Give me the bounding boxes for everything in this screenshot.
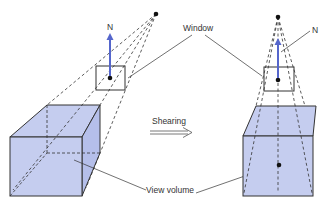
left-view-volume	[10, 105, 100, 196]
left-normal-label: N	[107, 22, 113, 32]
right-normal-leader	[281, 31, 310, 52]
right-window-center-dot	[276, 78, 281, 83]
window-leader-left	[128, 35, 192, 78]
shearing-diagram: N Window Shearing View volume N	[0, 0, 330, 207]
view-volume-label: View volume	[146, 185, 194, 195]
left-window-center-dot	[108, 76, 113, 81]
window-leader-right	[205, 35, 262, 76]
right-normal-label: N	[312, 25, 318, 35]
window-label: Window	[183, 23, 214, 33]
right-normal-arrow-icon	[275, 38, 282, 78]
right-view-volume	[243, 106, 316, 196]
double-arrow-icon	[150, 128, 192, 138]
right-eye-point	[276, 15, 281, 20]
shearing-label: Shearing	[152, 116, 186, 126]
right-volume-center-dot	[277, 163, 282, 168]
left-eye-point	[154, 12, 159, 17]
